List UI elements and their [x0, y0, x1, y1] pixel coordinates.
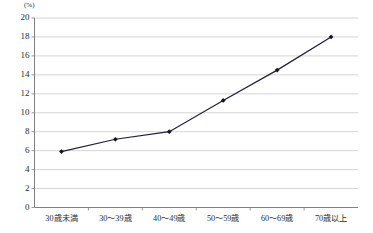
line-chart: (%) 02468101214161820 30歳未満30～39歳40～49歳5… [0, 0, 373, 233]
x-tick-label: 30～39歳 [88, 214, 142, 224]
x-tick-label: 40～49歳 [142, 214, 196, 224]
data-point-marker [113, 137, 118, 142]
y-tick-label: 10 [8, 108, 30, 117]
y-tick-label: 20 [8, 13, 30, 22]
x-tick-label: 50～59歳 [196, 214, 250, 224]
data-point-marker [221, 98, 226, 103]
y-tick-label: 0 [8, 203, 30, 212]
x-tick-label: 70歳以上 [304, 214, 358, 224]
data-point-marker [59, 149, 64, 154]
y-tick-label: 6 [8, 146, 30, 155]
plot-area [0, 0, 373, 233]
data-point-marker [167, 129, 172, 134]
y-tick-label: 18 [8, 32, 30, 41]
data-series-line [61, 37, 331, 152]
y-tick-label: 14 [8, 70, 30, 79]
y-tick-label: 8 [8, 127, 30, 136]
y-tick-label: 12 [8, 89, 30, 98]
y-tick-label: 2 [8, 184, 30, 193]
x-tick-label: 60～69歳 [250, 214, 304, 224]
data-point-markers [59, 35, 333, 154]
y-tick-label: 16 [8, 51, 30, 60]
gridlines-group [35, 18, 359, 189]
y-tick-label: 4 [8, 165, 30, 174]
x-tick-label: 30歳未満 [35, 214, 89, 224]
